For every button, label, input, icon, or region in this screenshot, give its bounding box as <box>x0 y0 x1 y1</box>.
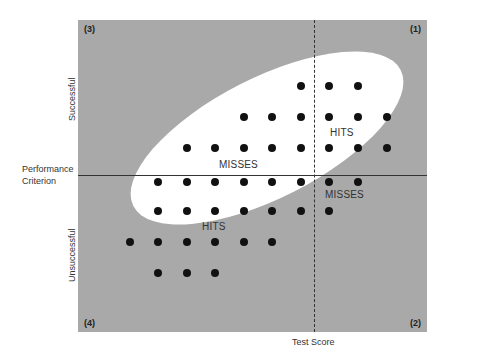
region-label-misses-upper: MISSES <box>219 159 258 170</box>
criterion-cutoff-line <box>78 175 427 176</box>
data-point <box>268 144 276 152</box>
data-point <box>183 238 191 246</box>
data-point <box>183 144 191 152</box>
data-point <box>297 207 305 215</box>
scatter-plot-area: (3) (1) (4) (2) HITS MISSES MISSES HITS <box>78 20 427 332</box>
region-label-misses-lower: MISSES <box>325 189 364 200</box>
data-point <box>268 178 276 186</box>
y-axis-label-line1: Performance <box>22 164 74 174</box>
data-point <box>297 144 305 152</box>
data-point <box>240 238 248 246</box>
data-point <box>354 144 362 152</box>
data-point <box>354 113 362 121</box>
data-point <box>325 144 333 152</box>
data-point <box>297 178 305 186</box>
quadrant-1-label: (1) <box>410 24 421 34</box>
data-point <box>183 269 191 277</box>
y-upper-label: Successful <box>67 77 77 121</box>
data-point <box>154 269 162 277</box>
data-point <box>240 144 248 152</box>
region-label-hits-lower: HITS <box>202 221 226 232</box>
quadrant-4-label: (4) <box>84 318 95 328</box>
data-point <box>211 238 219 246</box>
data-point <box>268 113 276 121</box>
x-axis-label: Test Score <box>292 337 335 347</box>
data-point <box>325 178 333 186</box>
data-point <box>354 82 362 90</box>
data-point <box>154 207 162 215</box>
data-point <box>297 113 305 121</box>
data-point <box>383 144 391 152</box>
data-point <box>211 144 219 152</box>
test-score-cutoff-line <box>314 20 315 332</box>
data-point <box>154 238 162 246</box>
data-point <box>240 207 248 215</box>
data-point <box>268 238 276 246</box>
data-point <box>297 82 305 90</box>
data-point <box>126 238 134 246</box>
data-point <box>211 269 219 277</box>
data-point <box>183 207 191 215</box>
data-point <box>154 178 162 186</box>
data-point <box>325 82 333 90</box>
correlation-ellipse <box>106 20 427 260</box>
data-point <box>211 207 219 215</box>
y-lower-label: Unsuccessful <box>67 228 77 282</box>
data-point <box>325 113 333 121</box>
y-axis-label-line2: Criterion <box>22 176 56 186</box>
data-point <box>325 207 333 215</box>
quadrant-2-label: (2) <box>410 318 421 328</box>
data-point <box>183 178 191 186</box>
data-point <box>240 178 248 186</box>
data-point <box>240 113 248 121</box>
data-point <box>383 113 391 121</box>
quadrant-3-label: (3) <box>84 24 95 34</box>
data-point <box>268 207 276 215</box>
data-point <box>211 178 219 186</box>
region-label-hits-upper: HITS <box>330 127 354 138</box>
data-point <box>354 178 362 186</box>
